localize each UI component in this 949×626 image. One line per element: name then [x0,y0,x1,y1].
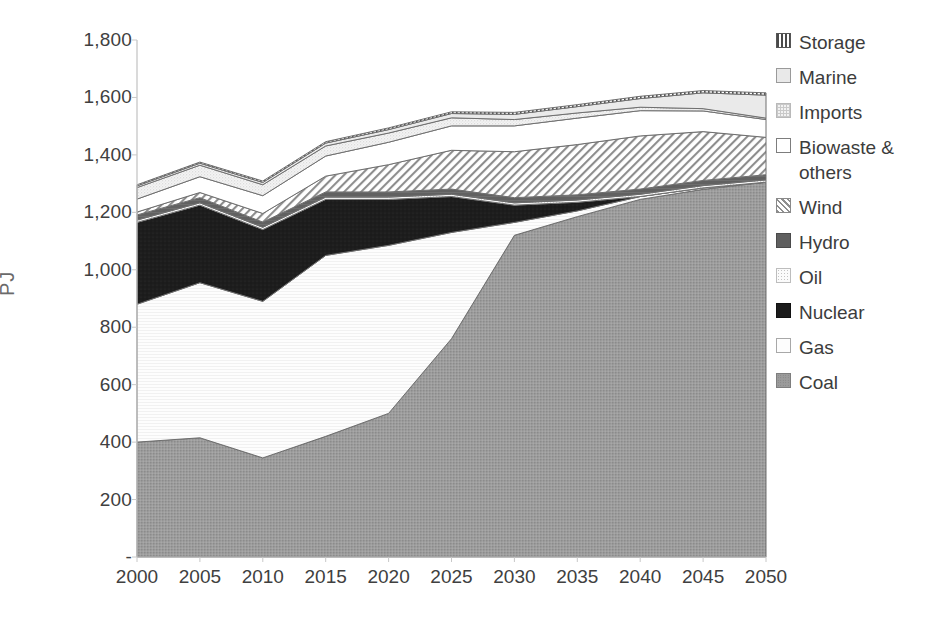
legend-item-label: Gas [799,335,834,360]
gray-speckle-swatch-icon [776,373,791,388]
vertical-bars-swatch-icon [776,33,791,48]
legend-item-oil[interactable]: Oil [776,265,949,290]
stacked-area-chart: PJ -2004006008001,0001,2001,4001,6001,80… [0,0,949,626]
light-gray-swatch-icon [776,68,791,83]
white-outline-swatch-icon [776,338,791,353]
x-tick-label: 2035 [556,566,598,588]
legend-item-label: Biowaste & others [799,135,894,185]
legend-item-label: Oil [799,265,822,290]
legend-item-wind[interactable]: Wind [776,195,949,220]
white-swatch-icon [776,138,791,153]
series-areas [137,91,766,557]
legend-item-label: Hydro [799,230,850,255]
legend-item-imports[interactable]: Imports [776,100,949,125]
legend-item-label: Nuclear [799,300,864,325]
x-tick-label: 2045 [682,566,724,588]
x-tick-label: 2020 [367,566,409,588]
chart-legend: StorageMarineImportsBiowaste & othersWin… [776,30,949,405]
legend-item-storage[interactable]: Storage [776,30,949,55]
dark-gray-swatch-icon [776,233,791,248]
legend-item-nuclear[interactable]: Nuclear [776,300,949,325]
legend-item-coal[interactable]: Coal [776,370,949,395]
legend-item-biowaste[interactable]: Biowaste & others [776,135,949,185]
legend-item-label: Wind [799,195,842,220]
fine-dots-swatch-icon [776,268,791,283]
black-swatch-icon [776,303,791,318]
x-tick-label: 2000 [116,566,158,588]
dotted-grid-swatch-icon [776,103,791,118]
x-tick-label: 2025 [430,566,472,588]
legend-item-label: Imports [799,100,862,125]
x-tick-label: 2050 [745,566,787,588]
x-tick-label: 2010 [242,566,284,588]
legend-item-hydro[interactable]: Hydro [776,230,949,255]
legend-item-label: Storage [799,30,866,55]
x-tick-label: 2040 [619,566,661,588]
legend-item-label: Coal [799,370,838,395]
legend-item-label: Marine [799,65,857,90]
legend-item-marine[interactable]: Marine [776,65,949,90]
diagonal-hatch-swatch-icon [776,198,791,213]
x-tick-label: 2015 [305,566,347,588]
x-tick-label: 2005 [179,566,221,588]
x-tick-label: 2030 [493,566,535,588]
x-axis-tick-labels: 2000200520102015202020252030203520402045… [0,566,949,606]
legend-item-gas[interactable]: Gas [776,335,949,360]
